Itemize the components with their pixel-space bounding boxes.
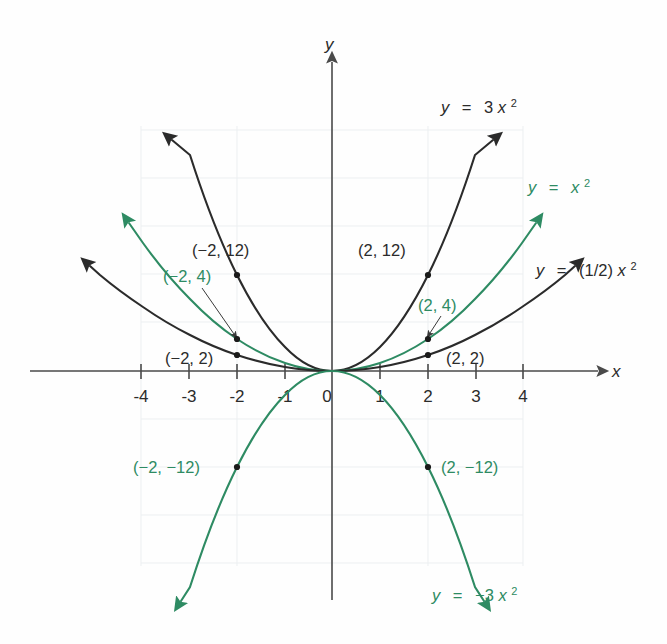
- label-pos2-4: (2, 4): [418, 296, 457, 314]
- figure-root: x y -4 -3 -2 -1 0 1 2 3 4: [0, 0, 667, 644]
- point-pos2-neg12: [425, 464, 431, 470]
- label-pos2-12: (2, 12): [358, 241, 406, 259]
- eq-exponent: 2: [584, 177, 590, 189]
- y-axis-label: y: [324, 35, 335, 54]
- point-pos2-4: [425, 336, 431, 342]
- label-pos2-neg12: (2, −12): [441, 458, 498, 476]
- svg-text:y = (1/2): y = (1/2) x 2: [535, 260, 637, 279]
- eq-lhs: y: [527, 178, 538, 196]
- eq-base: x: [570, 178, 580, 196]
- svg-text:y = 3: y = 3 x 2: [440, 97, 517, 116]
- curve-y-neg3x2-right: [332, 371, 484, 601]
- label-neg2-12: (−2, 12): [192, 241, 249, 259]
- x-tick-label: 1: [375, 387, 384, 406]
- label-neg2-2: (−2, 2): [165, 349, 213, 367]
- point-pos2-12: [425, 272, 431, 278]
- eq-lhs: y: [431, 586, 442, 604]
- eq-operator: =: [453, 586, 463, 604]
- x-tick-label: 3: [471, 387, 480, 406]
- eq-base: x: [497, 98, 507, 116]
- point-pos2-2: [425, 352, 431, 358]
- x-axis-label: x: [611, 362, 621, 381]
- point-neg2-2: [234, 352, 240, 358]
- eq-operator: =: [462, 98, 472, 116]
- x-tick-label: -4: [133, 387, 148, 406]
- eq-exponent: 2: [630, 260, 636, 272]
- eq-exponent: 2: [511, 97, 517, 109]
- point-neg2-4: [234, 336, 240, 342]
- parabola-graph: x y -4 -3 -2 -1 0 1 2 3 4: [0, 0, 667, 644]
- label-neg2-4: (−2, 4): [163, 267, 211, 285]
- x-tick-label: 2: [423, 387, 432, 406]
- equation-label-neg3x2: y = −3 x 2: [431, 585, 517, 604]
- curve-y-3x2-right: [332, 140, 493, 371]
- eq-lhs: y: [440, 98, 451, 116]
- svg-text:y = x: y = x 2: [527, 177, 590, 196]
- x-tick-label: 0: [322, 387, 331, 406]
- leader-arrow-neg2-4: [202, 288, 234, 334]
- equation-label-x2: y = x 2: [527, 177, 590, 196]
- x-tick-label: -2: [229, 387, 244, 406]
- equation-label-half-x2: y = (1/2) x 2: [535, 260, 637, 279]
- x-tick-label: -3: [181, 387, 196, 406]
- eq-lhs: y: [535, 261, 546, 279]
- svg-text:y = −3: y = −3 x 2: [431, 585, 517, 604]
- eq-base: x: [617, 261, 627, 279]
- eq-exponent: 2: [511, 585, 517, 597]
- curve-y-neg3x2-left: [181, 371, 332, 601]
- label-neg2-neg12: (−2, −12): [133, 458, 200, 476]
- point-neg2-12: [234, 272, 240, 278]
- eq-base: x: [497, 586, 507, 604]
- eq-coefficient: 3: [484, 98, 493, 116]
- eq-coefficient: (1/2): [579, 261, 613, 279]
- label-pos2-2: (2, 2): [446, 349, 485, 367]
- x-tick-label: 4: [518, 387, 527, 406]
- eq-coefficient: −3: [475, 586, 494, 604]
- eq-operator: =: [549, 178, 559, 196]
- eq-operator: =: [557, 261, 567, 279]
- point-neg2-neg12: [234, 464, 240, 470]
- equation-label-3x2: y = 3 x 2: [440, 97, 517, 116]
